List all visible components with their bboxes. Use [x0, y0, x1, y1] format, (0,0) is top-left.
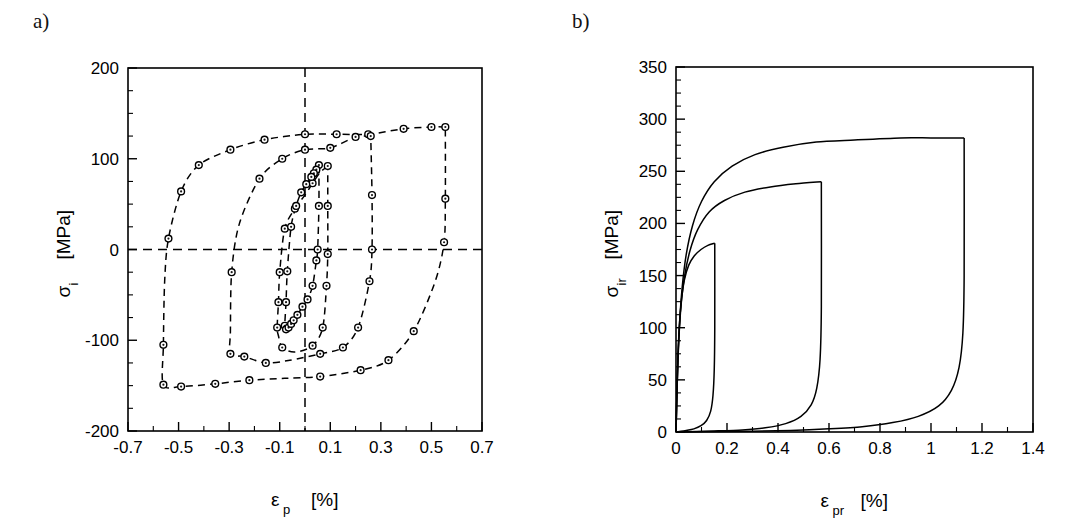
data-point-marker-center: [180, 190, 182, 192]
data-point-marker-center: [162, 384, 164, 386]
y-axis-tick-label: 350: [639, 58, 667, 77]
y-axis-tick-label: -200: [85, 422, 119, 441]
svg-text:[MPa]: [MPa]: [601, 210, 622, 260]
y-axis-tick-label: 200: [639, 214, 667, 233]
data-point-marker-center: [430, 126, 432, 128]
svg-text:ε: ε: [271, 489, 280, 510]
data-point-marker-center: [301, 306, 303, 308]
svg-text:i: i: [66, 283, 81, 286]
svg-text:[%]: [%]: [311, 489, 338, 510]
data-point-marker-center: [304, 133, 306, 135]
svg-text:p: p: [283, 502, 290, 517]
data-point-marker-center: [258, 178, 260, 180]
y-axis-title: σi[MPa]: [53, 210, 81, 298]
y-axis-tick-label: 250: [639, 162, 667, 181]
data-point-marker-center: [403, 128, 405, 130]
data-point-marker-center: [387, 359, 389, 361]
data-point-marker-center: [444, 198, 446, 200]
data-point-marker-center: [368, 280, 370, 282]
x-axis-title: εpr[%]: [821, 490, 888, 518]
data-point-marker-center: [285, 301, 287, 303]
unloading-branch-curve: [676, 182, 821, 432]
svg-text:[MPa]: [MPa]: [53, 210, 74, 260]
x-axis-tick-label: 0.8: [868, 439, 892, 458]
y-axis-tick-label: 0: [658, 423, 667, 442]
x-axis-tick-label: -0.3: [214, 438, 243, 457]
panel-b: b) 00.20.40.60.811.21.405010015020025030…: [539, 0, 1077, 531]
data-point-marker-center: [198, 164, 200, 166]
x-axis-tick-label: 0.4: [766, 439, 790, 458]
data-point-marker-center: [329, 147, 331, 149]
data-point-marker-center: [180, 385, 182, 387]
data-point-marker-center: [444, 126, 446, 128]
x-axis-tick-label: 0.2: [715, 439, 739, 458]
data-point-marker-center: [319, 353, 321, 355]
data-point-marker-center: [281, 346, 283, 348]
y-axis-tick-label: 100: [639, 319, 667, 338]
x-axis-tick-label: 0.1: [318, 438, 342, 457]
data-point-marker-center: [293, 319, 295, 321]
data-point-marker-center: [306, 298, 308, 300]
data-point-marker-center: [327, 205, 329, 207]
data-point-marker-center: [322, 326, 324, 328]
data-point-marker-center: [370, 135, 372, 137]
data-point-marker-center: [311, 182, 313, 184]
svg-text:ir: ir: [614, 278, 629, 286]
data-point-marker-center: [265, 362, 267, 364]
svg-text:ε: ε: [821, 490, 830, 511]
panel-b-label: b): [572, 9, 590, 34]
y-axis-tick-label: 50: [648, 371, 667, 390]
data-point-marker-center: [248, 379, 250, 381]
data-point-marker-center: [317, 248, 319, 250]
data-point-marker-center: [284, 228, 286, 230]
x-axis-tick-label: 0.6: [817, 439, 841, 458]
data-point-marker-center: [413, 330, 415, 332]
data-point-marker-center: [318, 205, 320, 207]
data-point-marker-center: [310, 176, 312, 178]
panel-a-label: a): [33, 9, 49, 34]
hysteresis-loop-curve: [162, 127, 445, 388]
data-point-marker-center: [360, 369, 362, 371]
data-point-marker-center: [277, 301, 279, 303]
svg-text:[%]: [%]: [861, 490, 888, 511]
data-point-marker-center: [319, 375, 321, 377]
panel-a: a) -0.7-0.5-0.3-0.10.10.30.50.7-200-1000…: [0, 0, 538, 531]
data-point-marker-center: [342, 346, 344, 348]
x-axis-tick-label: 1.2: [970, 439, 994, 458]
data-point-marker-center: [357, 326, 359, 328]
data-point-marker-center: [263, 139, 265, 141]
data-point-marker-center: [214, 383, 216, 385]
figure-container: a) -0.7-0.5-0.3-0.10.10.30.50.7-200-1000…: [0, 0, 1077, 531]
x-axis-tick-label: 0.7: [470, 438, 494, 457]
panel-b-plot: 00.20.40.60.811.21.405010015020025030035…: [539, 0, 1077, 531]
y-axis-tick-label: 300: [639, 110, 667, 129]
y-axis-tick-label: 0: [110, 241, 119, 260]
data-point-marker-center: [243, 355, 245, 357]
data-point-marker-center: [305, 183, 307, 185]
data-point-marker-center: [290, 226, 292, 228]
data-point-marker-center: [167, 238, 169, 240]
data-point-marker-center: [162, 344, 164, 346]
data-point-marker-center: [318, 164, 320, 166]
y-axis-tick-label: -100: [85, 331, 119, 350]
plot-frame: [676, 67, 1033, 432]
x-axis-tick-label: 1: [926, 439, 935, 458]
data-point-marker-center: [315, 259, 317, 261]
data-point-marker-center: [311, 285, 313, 287]
panel-a-plot: -0.7-0.5-0.3-0.10.10.30.50.7-200-1000100…: [0, 0, 538, 531]
data-point-marker-center: [281, 158, 283, 160]
svg-text:σ: σ: [53, 286, 74, 298]
data-point-marker-center: [311, 345, 313, 347]
data-point-marker-center: [229, 353, 231, 355]
data-point-marker-center: [295, 205, 297, 207]
x-axis-tick-label: 1.4: [1021, 439, 1045, 458]
data-point-marker-center: [327, 253, 329, 255]
svg-text:pr: pr: [833, 503, 845, 518]
data-point-marker-center: [443, 241, 445, 243]
data-point-marker-center: [371, 248, 373, 250]
x-axis-tick-label: -0.1: [265, 438, 294, 457]
svg-text:σ: σ: [601, 286, 622, 298]
x-axis-tick-label: 0: [671, 439, 680, 458]
data-point-marker-center: [304, 149, 306, 151]
loading-branch-curve: [676, 243, 715, 432]
